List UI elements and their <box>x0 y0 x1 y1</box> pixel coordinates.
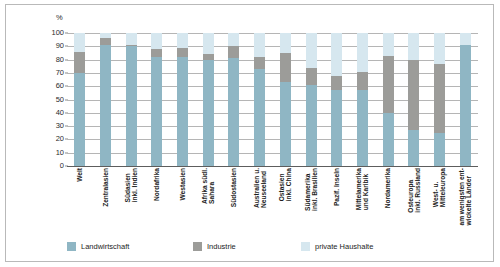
x-axis-tick: Nordamerika <box>375 168 401 230</box>
bar-segment <box>331 33 342 76</box>
bar-segment <box>74 52 85 73</box>
bar-segment <box>280 82 291 166</box>
bar-column[interactable] <box>170 33 196 166</box>
bar-segment <box>100 45 111 166</box>
x-axis-tick-label: am wenigsten ent-wickelte Länder <box>458 168 473 226</box>
bar-segment <box>177 33 188 48</box>
bar-segment <box>126 33 137 45</box>
x-axis-tick-label: West- u.Mitteleuropa <box>432 168 447 207</box>
x-axis-tick-label: Mittelamerikaund Karibik <box>355 168 370 210</box>
y-axis: 1009080706050403020100 <box>40 33 64 166</box>
bar-segment <box>126 46 137 166</box>
bar-segment <box>151 33 162 49</box>
bar-column[interactable] <box>350 33 376 166</box>
legend-label: private Haushalte <box>315 242 373 251</box>
bar-segment <box>383 56 394 113</box>
bar-segment <box>306 33 317 68</box>
legend-swatch <box>193 242 202 251</box>
bar-segment <box>383 113 394 166</box>
x-axis-tick: Zentralasien <box>93 168 119 230</box>
x-axis-tick-label-line: Südamerika <box>304 168 311 211</box>
bar-column[interactable] <box>401 33 427 166</box>
legend-item[interactable]: Industrie <box>193 242 301 251</box>
bar-segment <box>383 33 394 56</box>
y-axis-unit-label: % <box>56 13 63 22</box>
bar-segment <box>408 60 419 130</box>
x-axis-tick-label-line: Osteuropa <box>406 168 413 213</box>
bar-segment <box>280 53 291 82</box>
bar-segment <box>460 45 471 166</box>
x-axis-tick-label: Ostasieninkl. China <box>278 168 293 201</box>
x-axis-tick-label-line: Zentralasien <box>102 168 109 207</box>
bar-segment <box>357 72 368 91</box>
stacked-bar <box>126 33 137 166</box>
bar-column[interactable] <box>221 33 247 166</box>
bar-column[interactable] <box>195 33 221 166</box>
x-axis-tick-label-line: Neuseeland <box>260 168 267 208</box>
chart-legend: LandwirtschaftIndustrieprivate Haushalte <box>67 240 373 252</box>
x-axis-tick-label-line: Sahara <box>208 168 215 204</box>
bar-segment <box>434 33 445 64</box>
bar-column[interactable] <box>452 33 478 166</box>
y-axis-tick-label: 20 <box>56 136 64 144</box>
bar-segment <box>254 57 265 69</box>
x-axis-tick-label-line: und Karibik <box>362 168 369 210</box>
stacked-bar <box>383 33 394 166</box>
x-axis-tick-label-line: inkl. Indien <box>131 168 138 202</box>
bar-column[interactable] <box>247 33 273 166</box>
x-axis-tick-label: Südostasien <box>230 168 237 207</box>
legend-item[interactable]: Landwirtschaft <box>67 242 193 251</box>
stacked-bar <box>74 33 85 166</box>
bar-segment <box>460 33 471 45</box>
x-axis-tick: West- u.Mitteleuropa <box>427 168 453 230</box>
x-axis-tick-label-line: Australien u. <box>252 168 259 208</box>
bar-segment <box>434 133 445 166</box>
bar-column[interactable] <box>375 33 401 166</box>
x-axis-tick-label: Zentralasien <box>102 168 109 207</box>
y-axis-tick-label: 100 <box>51 29 64 37</box>
stacked-bar <box>280 33 291 166</box>
bar-segment <box>357 33 368 72</box>
x-axis-tick-label: Südasieninkl. Indien <box>124 168 139 202</box>
bar-column[interactable] <box>324 33 350 166</box>
y-axis-tick-label: 40 <box>56 109 64 117</box>
bar-segment <box>434 64 445 133</box>
x-axis-tick-label-line: wickelte Länder <box>465 168 472 226</box>
x-axis-tick-label: Südamerikainkl. Brasilien <box>304 168 319 211</box>
chart-plot-wrapper: % 1009080706050403020100 WeltZentralasie… <box>6 5 493 261</box>
bar-column[interactable] <box>273 33 299 166</box>
x-axis-tick-label-line: Nordafrika <box>153 168 160 201</box>
bar-segment <box>306 85 317 166</box>
y-axis-tick-label: 80 <box>56 56 64 64</box>
y-axis-tick-label: 70 <box>56 69 64 77</box>
stacked-bar <box>434 33 445 166</box>
plot-area <box>67 33 478 167</box>
x-axis-tick-label: Osteuropainkl. Russland <box>406 168 421 213</box>
stacked-bar <box>151 33 162 166</box>
x-axis-tick-label-line: Welt <box>76 168 83 182</box>
bar-column[interactable] <box>118 33 144 166</box>
legend-swatch <box>301 242 310 251</box>
x-axis-tick-label: Afrika südl.Sahara <box>201 168 216 204</box>
x-axis-tick-label: Australien u.Neuseeland <box>252 168 267 208</box>
bar-column[interactable] <box>144 33 170 166</box>
bar-segment <box>74 73 85 166</box>
bar-column[interactable] <box>298 33 324 166</box>
chart-figure: % 1009080706050403020100 WeltZentralasie… <box>5 4 494 262</box>
legend-label: Industrie <box>207 242 236 251</box>
stacked-bar <box>203 33 214 166</box>
stacked-bar <box>100 33 111 166</box>
stacked-bar <box>408 33 419 166</box>
bar-segment <box>228 58 239 166</box>
x-axis-tick-label: Westasien <box>179 168 186 201</box>
x-axis-tick-label-line: Pazif. Inseln <box>333 168 340 206</box>
x-axis-tick: Westasien <box>170 168 196 230</box>
legend-item[interactable]: private Haushalte <box>301 242 373 251</box>
bar-column[interactable] <box>93 33 119 166</box>
bar-column[interactable] <box>67 33 93 166</box>
legend-swatch <box>67 242 76 251</box>
x-axis-tick: Afrika südl.Sahara <box>195 168 221 230</box>
x-axis-tick-label: Welt <box>76 168 83 182</box>
stacked-bar <box>177 33 188 166</box>
bar-column[interactable] <box>427 33 453 166</box>
